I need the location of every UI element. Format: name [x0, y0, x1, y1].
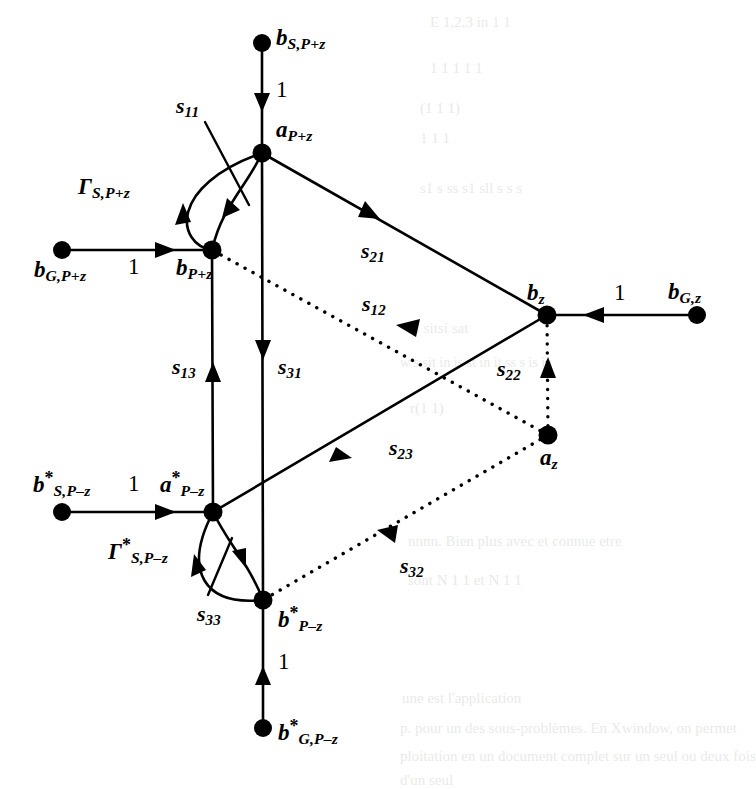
node-a-pmz: [204, 503, 223, 522]
node-label-b_z: bz: [527, 281, 545, 307]
edge-bs-to-a-pmz: [62, 504, 213, 520]
node-label-b_Pmz: b*P–z: [278, 605, 323, 634]
node-b-z: [538, 306, 557, 325]
node-label-b_S_Pz: bS,P+z: [276, 26, 326, 52]
leader-s11: [205, 122, 249, 205]
node-label-b_G_Pmz: b*G,P–z: [278, 718, 338, 747]
edge-label-e_s21: s21: [361, 240, 385, 265]
nodes-layer: [53, 34, 706, 737]
edge-gain-e_bG_to_b_Pmz: 1: [278, 650, 290, 673]
node-b-g-pmz: [254, 719, 272, 737]
edge-s13: [205, 250, 221, 512]
edge-label-e_s31: s31: [278, 356, 302, 381]
node-label-a_Pmz: a*P–z: [160, 470, 205, 499]
node-b-g-pz: [53, 241, 71, 259]
edge-label-e_gamma_s_pmz: Γ*S,P–z: [108, 537, 168, 566]
node-b-pmz: [254, 591, 273, 610]
edge-bs-to-a-pz: [254, 43, 270, 153]
edge-gain-e_bS_to_a_Pz: 1: [276, 78, 288, 101]
node-label-b_S_Pmz: b*S,P–z: [33, 470, 91, 499]
edge-gamma-s-pmz: [191, 512, 263, 601]
edge-label-e_s23: s23: [389, 437, 413, 462]
node-label-b_Pz: bP+z: [176, 256, 213, 282]
edge-gamma-s-pz: [175, 153, 262, 250]
node-label-a_Pz: aP+z: [276, 118, 313, 144]
edge-s33: [213, 512, 263, 600]
edge-s11: [212, 153, 262, 250]
node-label-b_G_z: bG,z: [668, 280, 701, 306]
node-b-s-pmz: [53, 503, 71, 521]
edge-s21: [262, 153, 547, 315]
node-label-a_z: az: [540, 446, 558, 472]
edge-label-e_gamma_s_pz: ΓS,P+z: [78, 175, 130, 201]
node-b-g-z: [688, 306, 706, 324]
edge-bgz-to-bz: [547, 307, 697, 323]
edge-label-e_s33: s33: [197, 603, 221, 628]
edge-gain-e_bG_to_b_Pz: 1: [128, 255, 140, 278]
edge-label-e_s22: s22: [497, 358, 521, 383]
node-b-s-pz: [253, 34, 271, 52]
edge-label-e_s32: s32: [400, 555, 424, 580]
edge-gain-e_bS_to_a_Pmz: 1: [128, 472, 140, 495]
edge-gain-e_bGz_to_bz: 1: [614, 281, 626, 304]
edge-s22: [540, 315, 556, 435]
node-label-b_G_Pz: bG,P+z: [34, 258, 86, 284]
edge-s31: [255, 153, 271, 600]
edge-label-e_s11: s11: [176, 95, 199, 120]
leader-s33: [208, 538, 232, 595]
edge-bg-to-b-pmz: [255, 600, 271, 728]
node-a-pz: [253, 144, 272, 163]
edge-label-e_s12: s12: [362, 293, 386, 318]
node-a-z: [539, 426, 558, 445]
edge-label-e_s13: s13: [172, 356, 196, 381]
